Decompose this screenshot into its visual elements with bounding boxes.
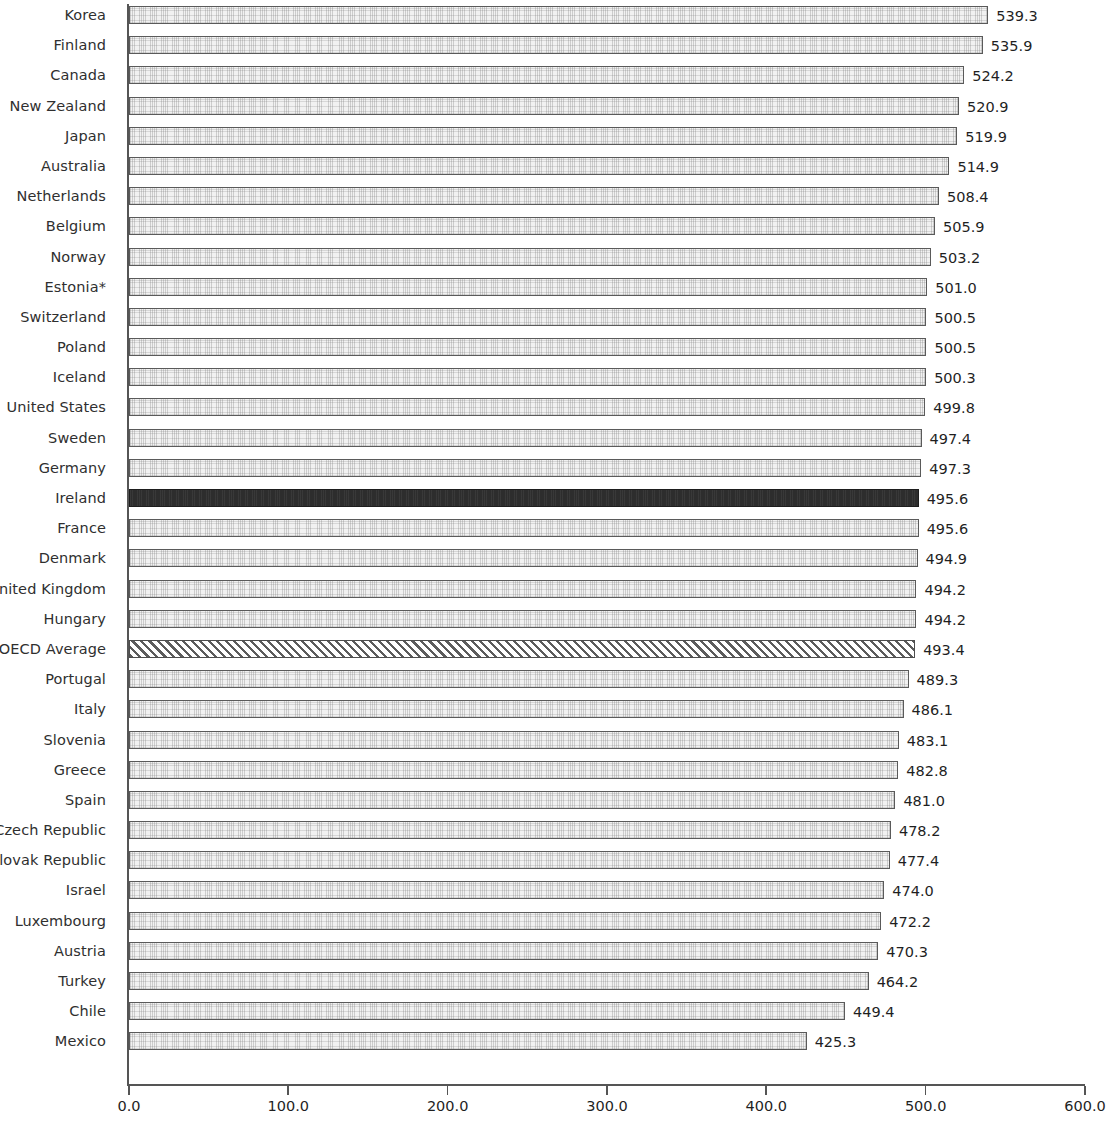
bar-container: 474.0 — [129, 881, 884, 899]
bar[interactable]: 535.9 — [129, 36, 983, 54]
bar-row: Slovak Republic477.4 — [0, 845, 1116, 875]
category-label: Japan — [65, 121, 106, 151]
bar-value-label: 494.2 — [924, 611, 966, 629]
x-tick-label: 500.0 — [905, 1098, 947, 1114]
bar-container: 478.2 — [129, 821, 891, 839]
category-label: Slovak Republic — [0, 845, 106, 875]
bar-container: 497.4 — [129, 429, 922, 447]
bar-value-label: 449.4 — [853, 1003, 895, 1021]
bar-value-label: 503.2 — [939, 249, 981, 267]
bar-hatched[interactable]: 493.4 — [129, 640, 915, 658]
bar[interactable]: 524.2 — [129, 66, 964, 84]
bar-value-label: 483.1 — [907, 732, 949, 750]
category-label: Chile — [69, 996, 106, 1026]
bar[interactable]: 497.3 — [129, 459, 921, 477]
category-label: Ireland — [55, 483, 106, 513]
bar[interactable]: 483.1 — [129, 731, 899, 749]
bar[interactable]: 499.8 — [129, 398, 925, 416]
bar-row: Italy486.1 — [0, 694, 1116, 724]
category-label: Belgium — [46, 211, 106, 241]
bar[interactable]: 474.0 — [129, 881, 884, 899]
bar[interactable]: 464.2 — [129, 972, 869, 990]
bar-container: 495.6 — [129, 519, 919, 537]
bar[interactable]: 486.1 — [129, 700, 904, 718]
bar-row: Japan519.9 — [0, 121, 1116, 151]
bar[interactable]: 500.5 — [129, 308, 926, 326]
bar-row: Spain481.0 — [0, 785, 1116, 815]
bar-value-label: 497.4 — [930, 430, 972, 448]
bar[interactable]: 514.9 — [129, 157, 949, 175]
bar-highlighted[interactable]: 495.6 — [129, 489, 919, 507]
bar[interactable]: 503.2 — [129, 248, 931, 266]
bar[interactable]: 519.9 — [129, 127, 957, 145]
category-label: Australia — [41, 151, 106, 181]
bar[interactable]: 482.8 — [129, 761, 898, 779]
bar-container: 482.8 — [129, 761, 898, 779]
category-label: Germany — [39, 453, 106, 483]
bar-container: 425.3 — [129, 1032, 807, 1050]
bar-row: Korea539.3 — [0, 0, 1116, 30]
bar-container: 464.2 — [129, 972, 869, 990]
bar-value-label: 481.0 — [903, 792, 945, 810]
bar[interactable]: 425.3 — [129, 1032, 807, 1050]
category-label: France — [57, 513, 106, 543]
category-label: OECD Average — [0, 634, 106, 664]
category-label: Hungary — [43, 604, 106, 634]
bar-row: Canada524.2 — [0, 60, 1116, 90]
bar-row: Austria470.3 — [0, 936, 1116, 966]
bar-container: 472.2 — [129, 912, 881, 930]
bar-row: Mexico425.3 — [0, 1026, 1116, 1056]
bar-container: 493.4 — [129, 640, 915, 658]
bar[interactable]: 495.6 — [129, 519, 919, 537]
bar[interactable]: 489.3 — [129, 670, 909, 688]
bar[interactable]: 500.5 — [129, 338, 926, 356]
bar-value-label: 500.5 — [934, 339, 976, 357]
bar[interactable]: 508.4 — [129, 187, 939, 205]
bar-value-label: 478.2 — [899, 822, 941, 840]
bar-container: 494.2 — [129, 580, 916, 598]
bar-row: Estonia*501.0 — [0, 272, 1116, 302]
bar[interactable]: 472.2 — [129, 912, 881, 930]
bar-row: Norway503.2 — [0, 242, 1116, 272]
bar-row: United Kingdom494.2 — [0, 574, 1116, 604]
category-label: Luxembourg — [15, 906, 106, 936]
category-label: Greece — [54, 755, 106, 785]
bar[interactable]: 520.9 — [129, 97, 959, 115]
bar-container: 524.2 — [129, 66, 964, 84]
bar-row: New Zealand520.9 — [0, 91, 1116, 121]
x-tick-label: 300.0 — [586, 1098, 628, 1114]
category-label: Sweden — [48, 423, 106, 453]
bar-container: 497.3 — [129, 459, 921, 477]
bar-row: Belgium505.9 — [0, 211, 1116, 241]
bar-value-label: 474.0 — [892, 882, 934, 900]
bar[interactable]: 494.9 — [129, 549, 918, 567]
y-axis-line — [127, 4, 129, 1084]
category-label: Iceland — [53, 362, 106, 392]
bar-container: 508.4 — [129, 187, 939, 205]
bar[interactable]: 539.3 — [129, 6, 988, 24]
bar-container: 505.9 — [129, 217, 935, 235]
x-tick-mark — [606, 1086, 608, 1095]
bar[interactable]: 477.4 — [129, 851, 890, 869]
x-tick-label: 400.0 — [746, 1098, 788, 1114]
bar-value-label: 497.3 — [929, 460, 971, 478]
bar[interactable]: 497.4 — [129, 429, 922, 447]
bar[interactable]: 449.4 — [129, 1002, 845, 1020]
bar-container: 501.0 — [129, 278, 927, 296]
bar-value-label: 508.4 — [947, 188, 989, 206]
bar-container: 477.4 — [129, 851, 890, 869]
bar[interactable]: 478.2 — [129, 821, 891, 839]
bar-value-label: 494.9 — [926, 550, 968, 568]
bar-value-label: 524.2 — [972, 67, 1014, 85]
bar-value-label: 494.2 — [924, 581, 966, 599]
bar[interactable]: 500.3 — [129, 368, 926, 386]
bar-row: OECD Average493.4 — [0, 634, 1116, 664]
bar[interactable]: 481.0 — [129, 791, 895, 809]
bar-row: Sweden497.4 — [0, 423, 1116, 453]
bar[interactable]: 505.9 — [129, 217, 935, 235]
bar[interactable]: 501.0 — [129, 278, 927, 296]
bar[interactable]: 494.2 — [129, 580, 916, 598]
bar[interactable]: 470.3 — [129, 942, 878, 960]
bar-row: Slovenia483.1 — [0, 725, 1116, 755]
bar[interactable]: 494.2 — [129, 610, 916, 628]
